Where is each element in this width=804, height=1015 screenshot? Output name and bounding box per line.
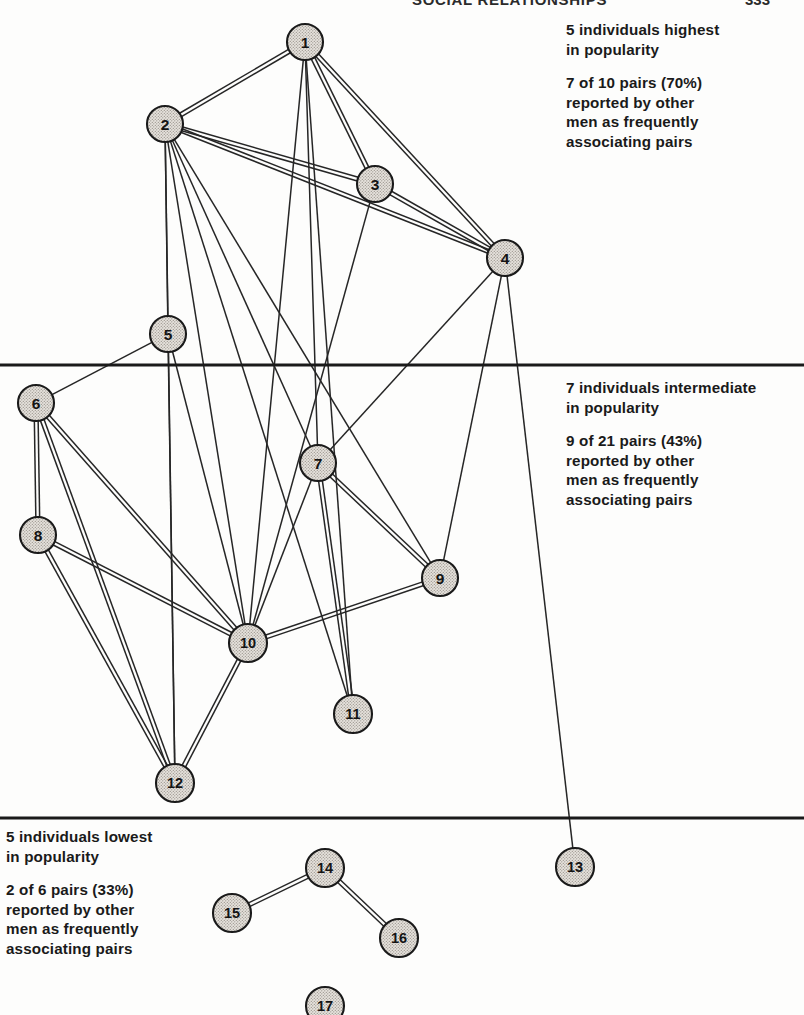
note-high-line6: associating pairs: [566, 132, 794, 152]
node-9[interactable]: 9: [422, 560, 458, 596]
node-14[interactable]: 14: [306, 849, 344, 887]
note-mid-line4: reported by other: [566, 451, 798, 471]
edge-6-12: [40, 418, 171, 767]
node-label-11: 11: [345, 706, 360, 722]
node-label-5: 5: [164, 326, 173, 343]
note-mid-line2: in popularity: [566, 398, 798, 418]
edge-2-10: [168, 141, 246, 626]
node-label-1: 1: [301, 34, 310, 51]
edge-1-7: [306, 59, 318, 446]
edge-8-10: [52, 541, 234, 637]
note-mid-line6: associating pairs: [566, 490, 798, 510]
note-mid-line5: men as frequently: [566, 470, 798, 490]
node-8[interactable]: 8: [20, 517, 56, 553]
node-13[interactable]: 13: [556, 848, 594, 886]
edge-1-3: [311, 56, 369, 169]
node-17[interactable]: 17: [306, 987, 344, 1015]
note-high-line5: men as frequently: [566, 112, 794, 132]
node-label-6: 6: [32, 395, 41, 412]
edge-5-6: [51, 342, 153, 395]
node-1[interactable]: 1: [287, 24, 323, 60]
note-intermediate-popularity: 7 individuals intermediate in popularity…: [566, 378, 798, 509]
node-label-13: 13: [567, 859, 583, 875]
edge-2-9: [174, 139, 431, 564]
edge-4-13: [507, 275, 573, 850]
node-6[interactable]: 6: [18, 385, 54, 421]
edge-4-9: [443, 275, 501, 562]
node-label-3: 3: [371, 176, 380, 193]
note-lowest-popularity: 5 individuals lowest in popularity 2 of …: [6, 827, 238, 958]
edge-1-11: [306, 59, 352, 697]
edge-1-2: [179, 49, 292, 117]
edge-7-11: [318, 480, 352, 698]
note-mid-line1: 7 individuals intermediate: [566, 378, 798, 398]
note-low-line6: associating pairs: [6, 939, 238, 959]
edge-7-9: [329, 473, 429, 567]
note-high-line4: reported by other: [566, 93, 794, 113]
edge-1-4: [315, 53, 495, 247]
node-7[interactable]: 7: [300, 445, 336, 481]
note-highest-popularity: 5 individuals highest in popularity 7 of…: [566, 20, 794, 151]
node-label-9: 9: [436, 570, 445, 587]
edge-2-4: [180, 128, 490, 253]
edge-14-15: [246, 874, 310, 908]
node-label-16: 16: [391, 930, 407, 946]
node-label-2: 2: [161, 116, 170, 133]
note-mid-line3: 9 of 21 pairs (43%): [566, 431, 798, 451]
sociogram-page: SOCIAL RELATIONSHIPS 333 123456789101112…: [0, 0, 804, 1015]
node-label-7: 7: [314, 455, 323, 472]
node-label-12: 12: [167, 775, 183, 791]
note-low-line1: 5 individuals lowest: [6, 827, 238, 847]
node-label-4: 4: [501, 250, 510, 267]
node-2[interactable]: 2: [147, 106, 183, 142]
node-label-8: 8: [34, 527, 43, 544]
edge-4-7: [329, 271, 493, 451]
edge-8-12: [45, 549, 169, 769]
node-label-17: 17: [317, 998, 333, 1014]
node-3[interactable]: 3: [357, 166, 393, 202]
node-5[interactable]: 5: [150, 316, 186, 352]
note-high-line3: 7 of 10 pairs (70%): [566, 73, 794, 93]
edge-2-3: [181, 127, 359, 181]
edge-7-10: [254, 479, 312, 627]
note-low-line2: in popularity: [6, 847, 238, 867]
edge-10-12: [181, 657, 242, 769]
node-label-10: 10: [240, 635, 256, 651]
edges-layer: [34, 49, 573, 928]
note-high-line1: 5 individuals highest: [566, 20, 794, 40]
node-4[interactable]: 4: [487, 240, 523, 276]
edge-14-16: [336, 878, 388, 927]
node-10[interactable]: 10: [229, 624, 267, 662]
note-low-line3: 2 of 6 pairs (33%): [6, 880, 238, 900]
node-11[interactable]: 11: [334, 695, 372, 733]
node-label-14: 14: [317, 860, 333, 876]
note-low-line5: men as frequently: [6, 919, 238, 939]
node-12[interactable]: 12: [156, 764, 194, 802]
node-16[interactable]: 16: [380, 919, 418, 957]
note-low-line4: reported by other: [6, 900, 238, 920]
note-high-line2: in popularity: [566, 40, 794, 60]
edge-6-8: [34, 420, 39, 518]
